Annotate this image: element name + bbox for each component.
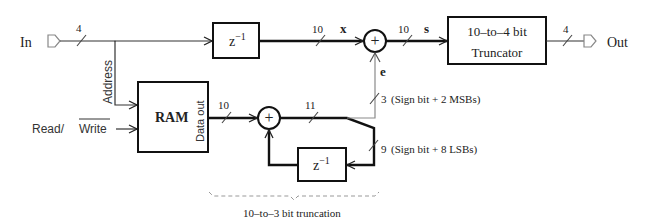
e-label: e (380, 64, 386, 79)
truncator-line2: Truncator (472, 45, 523, 60)
s-width-label: 10 (398, 23, 410, 35)
lsb-width-label: 9 (381, 143, 387, 155)
lsb-note: (Sign bit + 8 LSBs) (391, 143, 478, 156)
write-label: Write (79, 122, 107, 136)
truncation-brace (209, 192, 379, 200)
e-signal-line (347, 53, 375, 118)
ram-width-label: 10 (218, 99, 230, 111)
plus-icon: + (370, 32, 379, 49)
feedback-line (269, 130, 298, 165)
address-line (115, 41, 137, 105)
s-label: s (424, 21, 429, 36)
output-port-icon (584, 35, 596, 47)
ram-label: RAM (155, 110, 188, 125)
truncator-line1: 10–to–4 bit (467, 24, 527, 39)
truncation-label: 10–to–3 bit truncation (243, 207, 341, 219)
msb-width-label: 3 (381, 93, 387, 105)
data-out-label: Data out (194, 100, 206, 142)
output-label: Out (607, 35, 628, 50)
block-diagram: In 4 Address Read/ Write RAM Data out z−… (0, 0, 657, 224)
address-label: Address (101, 60, 115, 104)
x-label: x (340, 21, 347, 36)
x-width-label: 10 (312, 23, 324, 35)
acc-width-label: 11 (305, 99, 316, 111)
input-label: In (20, 35, 32, 50)
input-width-label: 4 (76, 22, 82, 34)
input-port-icon (48, 35, 60, 47)
msb-note: (Sign bit + 2 MSBs) (391, 93, 481, 106)
output-width-label: 4 (563, 23, 569, 35)
plus-icon: + (264, 109, 273, 126)
read-label: Read/ (32, 122, 65, 136)
